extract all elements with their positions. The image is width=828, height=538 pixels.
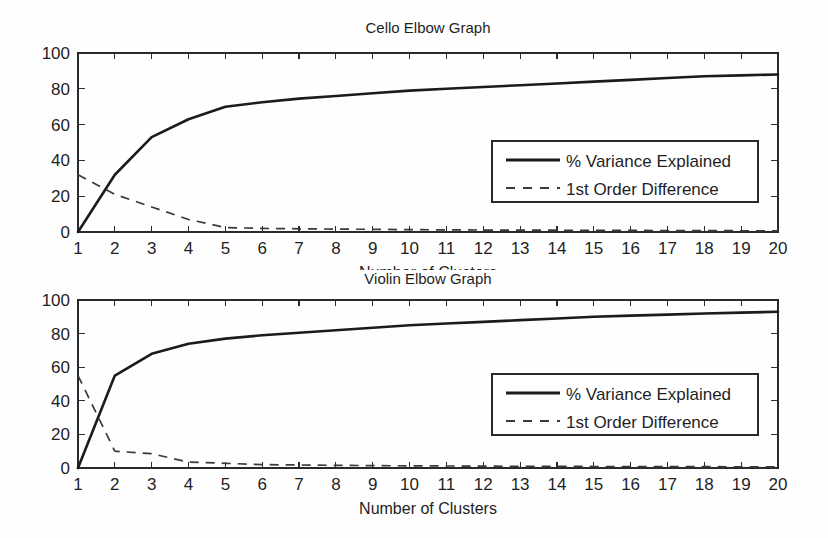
- x-tick-label: 18: [695, 475, 714, 494]
- x-tick-label: 18: [695, 239, 714, 258]
- y-tick-label: 0: [61, 459, 70, 478]
- legend-label-0: % Variance Explained: [566, 152, 731, 171]
- x-tick-label: 7: [294, 239, 303, 258]
- x-tick-label: 10: [400, 475, 419, 494]
- x-tick-label: 7: [294, 475, 303, 494]
- x-tick-label: 9: [368, 239, 377, 258]
- y-tick-label: 20: [51, 187, 70, 206]
- x-tick-label: 4: [184, 475, 193, 494]
- y-tick-label: 40: [51, 151, 70, 170]
- y-tick-label: 40: [51, 392, 70, 411]
- x-tick-label: 15: [584, 239, 603, 258]
- x-tick-label: 12: [474, 475, 493, 494]
- x-tick-label: 3: [147, 239, 156, 258]
- x-tick-label: 2: [110, 239, 119, 258]
- cello-elbow-chart: Cello Elbow Graph12345678910111213141516…: [0, 0, 828, 270]
- x-tick-label: 17: [658, 239, 677, 258]
- x-tick-label: 10: [400, 239, 419, 258]
- x-tick-label: 16: [621, 475, 640, 494]
- x-tick-label: 2: [110, 475, 119, 494]
- legend-violin: % Variance Explained1st Order Difference: [492, 374, 758, 435]
- x-tick-label: 11: [438, 475, 456, 494]
- x-tick-label: 6: [257, 239, 266, 258]
- figure-page: Cello Elbow Graph12345678910111213141516…: [0, 0, 828, 538]
- x-tick-label: 5: [221, 239, 230, 258]
- violin-elbow-chart: Violin Elbow Graph1234567891011121314151…: [0, 262, 828, 538]
- chart-panel-cello: Cello Elbow Graph12345678910111213141516…: [0, 0, 828, 270]
- y-tick-label: 100: [42, 291, 70, 310]
- legend-label-1: 1st Order Difference: [566, 180, 719, 199]
- x-tick-label: 4: [184, 239, 193, 258]
- y-tick-label: 60: [51, 358, 70, 377]
- x-tick-label: 9: [368, 475, 377, 494]
- x-tick-label: 8: [331, 239, 340, 258]
- y-tick-label: 80: [51, 80, 70, 99]
- x-tick-label: 14: [547, 239, 566, 258]
- x-tick-label: 14: [547, 475, 566, 494]
- x-tick-label: 6: [257, 475, 266, 494]
- legend-cello: % Variance Explained1st Order Difference: [492, 141, 758, 202]
- x-tick-label: 13: [511, 239, 530, 258]
- x-tick-label: 1: [73, 239, 82, 258]
- x-tick-label: 1: [73, 475, 82, 494]
- chart-panel-violin: Violin Elbow Graph1234567891011121314151…: [0, 262, 828, 538]
- legend-label-0: % Variance Explained: [566, 385, 731, 404]
- x-tick-label: 20: [769, 475, 788, 494]
- y-tick-label: 80: [51, 325, 70, 344]
- x-tick-label: 11: [438, 239, 456, 258]
- x-tick-label: 19: [732, 239, 751, 258]
- x-tick-label: 16: [621, 239, 640, 258]
- legend-label-1: 1st Order Difference: [566, 413, 719, 432]
- x-axis-label-violin: Number of Clusters: [359, 500, 497, 517]
- x-tick-label: 8: [331, 475, 340, 494]
- y-tick-label: 100: [42, 44, 70, 63]
- x-tick-label: 13: [511, 475, 530, 494]
- chart-title-cello: Cello Elbow Graph: [365, 19, 490, 36]
- x-tick-label: 17: [658, 475, 677, 494]
- x-tick-label: 20: [769, 239, 788, 258]
- x-tick-label: 19: [732, 475, 751, 494]
- y-tick-label: 60: [51, 116, 70, 135]
- chart-title-violin: Violin Elbow Graph: [364, 270, 491, 287]
- x-tick-label: 3: [147, 475, 156, 494]
- x-tick-label: 5: [221, 475, 230, 494]
- x-tick-label: 12: [474, 239, 493, 258]
- y-tick-label: 20: [51, 425, 70, 444]
- x-tick-label: 15: [584, 475, 603, 494]
- y-tick-label: 0: [61, 223, 70, 242]
